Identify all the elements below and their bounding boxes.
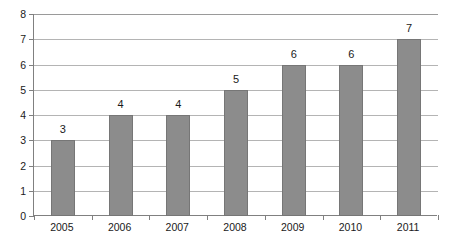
bar[interactable] — [166, 115, 190, 216]
x-axis-category-label: 2006 — [108, 222, 131, 233]
bar-slot: 5 — [207, 14, 265, 216]
bar[interactable] — [51, 140, 75, 216]
bar[interactable] — [109, 115, 133, 216]
bar-value-label: 7 — [406, 23, 412, 34]
x-axis-category-label: 2009 — [281, 222, 304, 233]
bar-slot: 7 — [380, 14, 438, 216]
x-axis-category-label: 2008 — [223, 222, 246, 233]
bar-value-label: 6 — [291, 49, 297, 60]
y-axis-tick-label: 1 — [20, 186, 26, 197]
bar-slot: 3 — [34, 14, 92, 216]
bar-value-label: 4 — [117, 99, 123, 110]
y-axis-tick-label: 3 — [20, 135, 26, 146]
x-tick-mark — [438, 215, 439, 220]
bar-value-label: 5 — [233, 74, 239, 85]
bar-value-label: 6 — [348, 49, 354, 60]
y-axis-tick-label: 0 — [20, 211, 26, 222]
x-axis-category-label: 2005 — [50, 222, 73, 233]
bar[interactable] — [339, 65, 363, 217]
x-axis-category-label: 2007 — [166, 222, 189, 233]
y-axis-tick-label: 2 — [20, 160, 26, 171]
bar[interactable] — [224, 90, 248, 216]
bar[interactable] — [397, 39, 421, 216]
x-axis-category-label: 2011 — [397, 222, 420, 233]
bar-slot: 4 — [92, 14, 150, 216]
y-axis-tick-label: 6 — [20, 59, 26, 70]
y-axis-tick-label: 5 — [20, 85, 26, 96]
y-axis-tick-label: 4 — [20, 110, 26, 121]
bar-slot: 6 — [265, 14, 323, 216]
bar[interactable] — [282, 65, 306, 217]
bar-slot: 4 — [149, 14, 207, 216]
bars-group: 3445667 — [34, 14, 438, 216]
x-axis-labels-group: 2005200620072008200920102011 — [33, 222, 437, 242]
bar-chart: 012345678 3445667 2005200620072008200920… — [0, 0, 456, 247]
bar-value-label: 3 — [60, 124, 66, 135]
x-axis-category-label: 2010 — [339, 222, 362, 233]
plot-area: 012345678 3445667 — [33, 14, 437, 216]
y-axis-tick-label: 7 — [20, 34, 26, 45]
y-axis-tick-label: 8 — [20, 9, 26, 20]
bar-slot: 6 — [323, 14, 381, 216]
bar-value-label: 4 — [175, 99, 181, 110]
